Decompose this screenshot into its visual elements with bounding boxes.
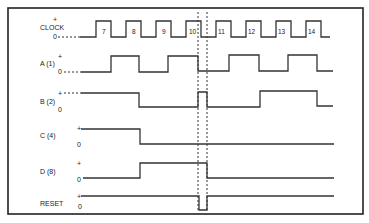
clock-pulse-8: 8 — [132, 28, 136, 35]
zero-label-c: 0 — [77, 141, 81, 148]
signal-reset: RESET + 0 — [40, 193, 334, 210]
signal-d: D (8) + 0 — [40, 160, 334, 183]
clock-pulse-9: 9 — [162, 28, 166, 35]
signal-label-d: D (8) — [40, 168, 56, 176]
clock-pulse-13: 13 — [278, 28, 286, 35]
zero-label-a: 0 — [58, 68, 62, 75]
reset-waveform — [81, 196, 334, 210]
clock-waveform — [80, 21, 330, 37]
zero-label-reset: 0 — [78, 203, 82, 210]
plus-label-b: + — [58, 90, 62, 97]
signal-a: A (1) + 0 — [40, 53, 333, 75]
clock-pulse-12: 12 — [248, 28, 256, 35]
zero-label-clock: 0 — [53, 33, 57, 40]
clock-pulse-10: 10 — [189, 28, 197, 35]
plus-label-d: + — [77, 160, 81, 167]
b-waveform — [81, 91, 333, 107]
signal-label-b: B (2) — [40, 98, 55, 106]
plus-label-reset: + — [77, 193, 81, 200]
plus-label-clock: + — [53, 16, 57, 23]
signal-clock: CLOCK + 0 7 8 9 10 11 12 13 14 — [40, 16, 330, 40]
clock-pulse-7: 7 — [102, 28, 106, 35]
plus-label-a: + — [58, 53, 62, 60]
signal-label-a: A (1) — [40, 60, 55, 68]
signal-c: C (4) + 0 — [40, 125, 334, 148]
signal-b: B (2) + 0 — [40, 90, 333, 113]
zero-label-d: 0 — [77, 176, 81, 183]
plus-label-c: + — [77, 125, 81, 132]
timing-diagram: CLOCK + 0 7 8 9 10 11 12 13 14 A (1) + 0… — [0, 0, 369, 223]
d-waveform — [83, 163, 334, 178]
signal-label-reset: RESET — [40, 200, 64, 207]
signal-label-c: C (4) — [40, 132, 56, 140]
signal-label-clock: CLOCK — [40, 24, 64, 31]
clock-pulse-14: 14 — [308, 28, 316, 35]
clock-pulse-11: 11 — [218, 28, 225, 35]
zero-label-b: 0 — [58, 106, 62, 113]
